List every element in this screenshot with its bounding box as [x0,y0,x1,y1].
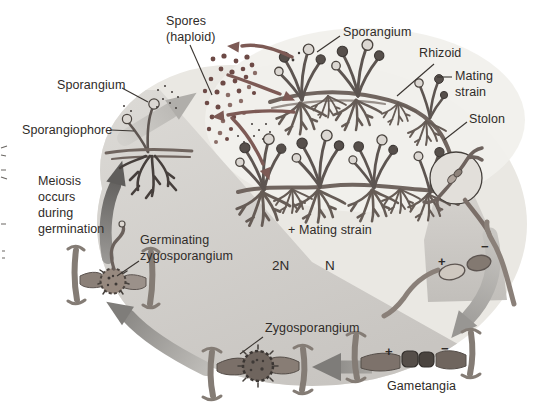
label-rhizoid: Rhizoid [419,45,461,61]
sign-minus-fusion: − [481,239,489,256]
label-plus-mating-strain: + Mating strain [288,222,372,238]
label-gametangia: Gametangia [387,378,456,394]
label-ploidy-n: N [325,257,335,274]
label-ploidy-2n: 2N [272,257,289,274]
label-meiosis-note: Meiosis occurs during germination [38,173,104,237]
label-stolon: Stolon [469,111,505,127]
sign-minus-gametangia: − [441,341,449,358]
label-sporangium-left: Sporangium [57,77,125,93]
label-zygosporangium: Zygosporangium [265,320,360,336]
label-spores-haploid: Spores (haploid) [166,13,216,45]
page-edge-text-fragments [1,146,7,258]
label-germinating-zygosporangium: Germinating zygosporangium [140,232,233,264]
label-mating-strain: Mating strain [455,68,493,100]
label-sporangiophore: Sporangiophore [22,122,112,138]
sign-plus-fusion: + [438,254,446,271]
label-sporangium-top: Sporangium [343,24,411,40]
life-cycle-diagram: Spores (haploid) Sporangium Rhizoid Mati… [0,0,536,412]
sign-plus-gametangia: + [385,344,393,361]
